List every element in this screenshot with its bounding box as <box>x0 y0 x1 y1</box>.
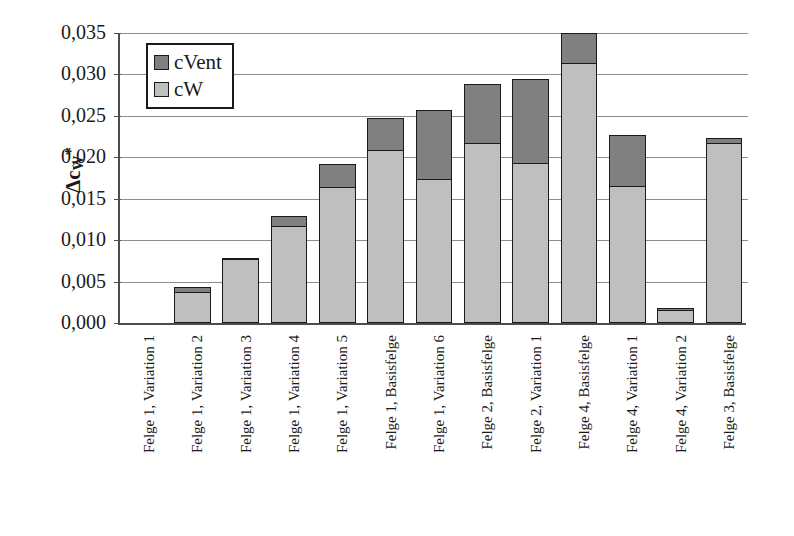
bar-slot <box>410 33 458 323</box>
x-axis-label-slot: Felge 1, Variation 3 <box>215 327 263 532</box>
x-axis-tick-label: Felge 1, Variation 6 <box>432 335 447 453</box>
bar-segment-cvent[interactable] <box>561 33 598 63</box>
legend-item-cvent: cVent <box>154 49 222 76</box>
bar-slot <box>313 33 361 323</box>
x-axis-label-slot: Felge 3, Basisfelge <box>698 327 746 532</box>
x-axis-tick-label: Felge 4, Variation 2 <box>674 335 689 453</box>
y-axis-tick-label: 0,025 <box>34 105 106 125</box>
stacked-bar[interactable] <box>512 79 549 323</box>
bar-segment-cw[interactable] <box>609 186 646 323</box>
stacked-bar[interactable] <box>271 216 308 323</box>
bar-slot <box>700 33 748 323</box>
bar-segment-cw[interactable] <box>561 63 598 323</box>
x-axis-tick-label: Felge 1, Variation 4 <box>287 335 302 453</box>
plot-area: cVent cW <box>118 33 746 325</box>
bar-segment-cvent[interactable] <box>271 216 308 226</box>
x-axis-label-slot: Felge 1, Variation 2 <box>166 327 214 532</box>
bar-segment-cvent[interactable] <box>367 118 404 149</box>
x-axis-tick-label: Felge 4, Variation 1 <box>625 335 640 453</box>
stacked-bar[interactable] <box>706 138 743 323</box>
stacked-bar[interactable] <box>174 287 211 323</box>
bar-segment-cw[interactable] <box>416 179 453 323</box>
stacked-bar[interactable] <box>561 33 598 323</box>
bar-chart: ΔcW* 0,0350,0300,0250,0200,0150,0100,005… <box>0 0 794 536</box>
bar-slot <box>555 33 603 323</box>
y-axis-title-base: c <box>61 171 85 180</box>
x-axis-label-slot: Felge 4, Variation 1 <box>601 327 649 532</box>
legend: cVent cW <box>146 43 234 109</box>
legend-item-cw: cW <box>154 76 222 103</box>
bar-segment-cvent[interactable] <box>512 79 549 164</box>
bar-segment-cvent[interactable] <box>464 84 501 143</box>
bar-segment-cw[interactable] <box>319 187 356 323</box>
x-axis-label-slot: Felge 2, Variation 1 <box>505 327 553 532</box>
x-axis-tick-label: Felge 1, Variation 1 <box>142 335 157 453</box>
legend-label-cvent: cVent <box>174 52 222 73</box>
bar-segment-cw[interactable] <box>706 143 743 323</box>
x-axis-tick-label: Felge 1, Variation 5 <box>335 335 350 453</box>
legend-label-cw: cW <box>174 79 203 100</box>
y-axis-tick-label: 0,020 <box>34 146 106 166</box>
x-axis-tick-label: Felge 4, Basisfelge <box>577 335 592 450</box>
stacked-bar[interactable] <box>657 308 694 323</box>
x-axis-tick-label: Felge 2, Variation 1 <box>529 335 544 453</box>
x-axis-label-slot: Felge 1, Variation 5 <box>311 327 359 532</box>
bar-segment-cw[interactable] <box>222 259 259 323</box>
y-axis-tick-label: 0,010 <box>34 229 106 249</box>
y-axis-tickmark <box>114 323 121 324</box>
stacked-bar[interactable] <box>609 135 646 323</box>
bar-segment-cw[interactable] <box>367 150 404 323</box>
y-axis-tick-label: 0,035 <box>34 22 106 42</box>
cw-swatch-icon <box>154 82 169 97</box>
bar-slot <box>603 33 651 323</box>
bar-slot <box>265 33 313 323</box>
x-axis-tick-label: Felge 3, Basisfelge <box>722 335 737 450</box>
stacked-bar[interactable] <box>367 118 404 323</box>
x-axis-tick-label: Felge 1, Variation 3 <box>239 335 254 453</box>
bar-segment-cw[interactable] <box>657 310 694 323</box>
bar-slot <box>362 33 410 323</box>
x-axis-tick-label: Felge 1, Variation 2 <box>190 335 205 453</box>
bar-segment-cw[interactable] <box>271 226 308 323</box>
y-axis-tick-label: 0,005 <box>34 271 106 291</box>
y-axis-tick-label: 0,030 <box>34 63 106 83</box>
x-axis-label-slot: Felge 1, Basisfelge <box>360 327 408 532</box>
x-axis-tick-labels: Felge 1, Variation 1Felge 1, Variation 2… <box>118 327 746 532</box>
bar-segment-cw[interactable] <box>464 143 501 323</box>
stacked-bar[interactable] <box>416 110 453 323</box>
x-axis-label-slot: Felge 4, Basisfelge <box>553 327 601 532</box>
x-axis-tick-label: Felge 2, Basisfelge <box>480 335 495 450</box>
bar-segment-cvent[interactable] <box>319 164 356 187</box>
cvent-swatch-icon <box>154 55 169 70</box>
bar-slot <box>458 33 506 323</box>
stacked-bar[interactable] <box>319 164 356 323</box>
x-axis-tick-label: Felge 1, Basisfelge <box>384 335 399 450</box>
x-axis-label-slot: Felge 1, Variation 6 <box>408 327 456 532</box>
x-axis-label-slot: Felge 1, Variation 4 <box>263 327 311 532</box>
x-axis-label-slot: Felge 1, Variation 1 <box>118 327 166 532</box>
stacked-bar[interactable] <box>222 258 259 323</box>
bar-slot <box>651 33 699 323</box>
x-axis-label-slot: Felge 2, Basisfelge <box>456 327 504 532</box>
y-axis-tick-label: 0,000 <box>34 312 106 332</box>
stacked-bar[interactable] <box>464 84 501 323</box>
bar-segment-cw[interactable] <box>512 163 549 323</box>
bar-slot <box>507 33 555 323</box>
bar-segment-cvent[interactable] <box>416 110 453 179</box>
bar-segment-cvent[interactable] <box>609 135 646 186</box>
x-axis-label-slot: Felge 4, Variation 2 <box>649 327 697 532</box>
bar-segment-cw[interactable] <box>174 292 211 323</box>
y-axis-tick-label: 0,015 <box>34 188 106 208</box>
